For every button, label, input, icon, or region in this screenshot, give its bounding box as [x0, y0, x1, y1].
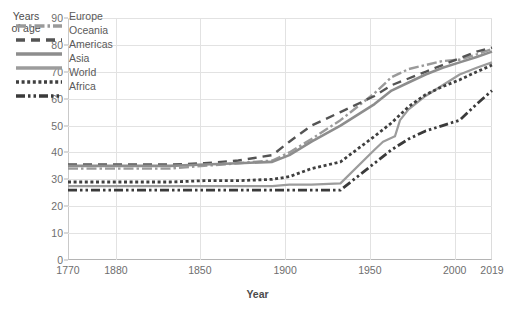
y-axis-tick-label: 10 [51, 227, 63, 239]
legend-item-world[interactable]: World [16, 66, 113, 78]
legend-item-asia[interactable]: Asia [16, 52, 113, 64]
legend-item-oceania[interactable]: Oceania [16, 24, 113, 36]
y-axis-tick-label: 30 [51, 173, 63, 185]
x-axis-tick-label: 1880 [104, 264, 127, 276]
legend-swatch-americas-icon [16, 42, 62, 46]
legend-label: Asia [69, 52, 89, 64]
chart-legend: EuropeOceaniaAmericasAsiaWorldAfrica [16, 10, 113, 92]
legend-swatch-asia-icon [16, 56, 62, 60]
x-axis-tick-label: 2019 [480, 264, 503, 276]
series-lines [68, 18, 492, 260]
y-axis-tick-label: 50 [51, 120, 63, 132]
y-axis-tick-label: 20 [51, 200, 63, 212]
legend-item-americas[interactable]: Americas [16, 38, 113, 50]
x-axis-tick-label: 1950 [358, 264, 381, 276]
x-axis-tick-label: 2000 [443, 264, 466, 276]
x-axis-tick-label: 1850 [188, 264, 211, 276]
x-axis-tick-label: 1770 [56, 264, 79, 276]
legend-swatch-world-icon [16, 70, 62, 74]
series-line-europe [68, 49, 492, 169]
legend-swatch-oceania-icon [16, 28, 62, 32]
x-axis-title: Year [0, 288, 515, 300]
legend-label: Europe [69, 10, 103, 22]
life-expectancy-chart: Years of age 0102030405060708090 1770188… [0, 0, 515, 315]
legend-label: Oceania [69, 24, 108, 36]
legend-item-africa[interactable]: Africa [16, 80, 113, 92]
y-axis-tick-label: 40 [51, 146, 63, 158]
series-line-africa [68, 91, 492, 190]
legend-swatch-europe-icon [16, 14, 62, 18]
legend-item-europe[interactable]: Europe [16, 10, 113, 22]
legend-label: Americas [69, 38, 113, 50]
legend-label: Africa [69, 80, 96, 92]
legend-label: World [69, 66, 96, 78]
plot-area: 0102030405060708090 17701880185019001950… [68, 18, 492, 260]
x-axis-tick-label: 1900 [273, 264, 296, 276]
legend-swatch-africa-icon [16, 84, 62, 88]
